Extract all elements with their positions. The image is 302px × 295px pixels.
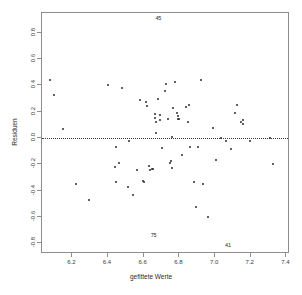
data-point	[171, 136, 173, 138]
x-axis-tick	[178, 253, 179, 257]
x-axis-tick-label: 6.6	[139, 259, 147, 265]
data-point	[145, 101, 147, 103]
data-point	[49, 79, 51, 81]
data-point	[53, 94, 55, 96]
data-point	[242, 119, 244, 121]
data-point	[177, 115, 179, 117]
data-point	[187, 121, 189, 123]
data-point	[200, 79, 202, 81]
residual-plot-figure: 457541 6.26.46.66.87.07.27.40.80.60.40.2…	[0, 0, 302, 295]
y-axis-tick	[37, 111, 41, 112]
y-axis-tick	[37, 216, 41, 217]
data-point	[172, 107, 174, 109]
clipped-title-remnant	[0, 0, 302, 9]
data-point	[114, 166, 116, 168]
data-point	[118, 162, 120, 164]
x-axis-tick	[214, 253, 215, 257]
data-point	[188, 104, 190, 106]
x-axis-tick	[250, 253, 251, 257]
data-point	[75, 183, 77, 185]
data-point	[157, 98, 159, 100]
data-point	[165, 83, 167, 85]
data-point	[167, 118, 169, 120]
data-point	[174, 81, 176, 83]
outlier-label: 45	[155, 15, 161, 21]
data-point	[115, 146, 117, 148]
data-point	[164, 90, 166, 92]
y-axis-tick-label: 0.8	[30, 28, 36, 36]
data-point	[159, 114, 161, 116]
data-point	[155, 121, 157, 123]
data-point	[236, 104, 238, 106]
data-point	[127, 186, 129, 188]
data-point	[197, 146, 199, 148]
data-point	[88, 199, 90, 201]
x-axis-tick-label: 6.4	[103, 259, 111, 265]
data-point	[215, 159, 217, 161]
y-axis-tick	[37, 32, 41, 33]
x-axis-tick	[285, 253, 286, 257]
y-axis-tick-label: -0.6	[30, 211, 36, 221]
y-axis-tick-label: 0.0	[30, 133, 36, 141]
x-axis-tick-label: 7.2	[246, 259, 254, 265]
data-point	[193, 181, 195, 183]
x-axis-tick-label: 6.8	[174, 259, 182, 265]
data-point	[234, 112, 236, 114]
x-axis-tick-label: 7.0	[210, 259, 218, 265]
zero-reference-line	[42, 138, 288, 139]
y-axis-tick-label: -0.8	[30, 237, 36, 247]
data-point	[128, 140, 130, 142]
y-axis-tick	[37, 58, 41, 59]
y-axis-tick	[37, 137, 41, 138]
y-axis-tick-label: 0.4	[30, 80, 36, 88]
data-point	[242, 123, 244, 125]
data-point	[207, 216, 209, 218]
data-point	[170, 160, 172, 162]
x-axis-tick-label: 6.2	[67, 259, 75, 265]
y-axis-tick-label: -0.4	[30, 185, 36, 195]
data-point	[62, 128, 64, 130]
data-point	[139, 99, 141, 101]
data-point	[185, 106, 187, 108]
y-axis-tick	[37, 84, 41, 85]
data-point	[155, 132, 157, 134]
data-point	[272, 163, 274, 165]
x-axis-title: gefittete Werte	[0, 273, 302, 280]
data-point	[249, 140, 251, 142]
data-point	[161, 147, 163, 149]
x-axis-tick	[143, 253, 144, 257]
data-point	[148, 165, 150, 167]
data-point	[159, 119, 161, 121]
data-point	[195, 206, 197, 208]
data-point	[181, 154, 183, 156]
plot-frame: 457541	[41, 12, 289, 253]
data-point	[212, 127, 214, 129]
data-point	[132, 194, 134, 196]
y-axis-tick	[37, 190, 41, 191]
data-point	[136, 169, 138, 171]
data-point	[178, 118, 180, 120]
data-point	[176, 112, 178, 114]
data-point	[152, 168, 154, 170]
data-point	[115, 181, 117, 183]
x-axis-tick	[107, 253, 108, 257]
y-axis-tick	[37, 163, 41, 164]
y-axis-tick	[37, 242, 41, 243]
y-axis-tick-label: 0.6	[30, 54, 36, 62]
x-axis-tick-label: 7.4	[281, 259, 289, 265]
data-point	[107, 84, 109, 86]
y-axis-tick-label: -0.2	[30, 158, 36, 168]
data-point	[121, 87, 123, 89]
data-point	[171, 167, 173, 169]
plot-area: 457541	[42, 13, 288, 252]
y-axis-title: Residuen	[11, 118, 18, 145]
data-point	[154, 117, 156, 119]
data-point	[225, 140, 227, 142]
outlier-label: 41	[225, 242, 231, 248]
data-point	[202, 183, 204, 185]
outlier-label: 75	[151, 232, 157, 238]
y-axis-tick-label: 0.2	[30, 107, 36, 115]
data-point	[143, 181, 145, 183]
x-axis-tick	[71, 253, 72, 257]
data-point	[154, 113, 156, 115]
